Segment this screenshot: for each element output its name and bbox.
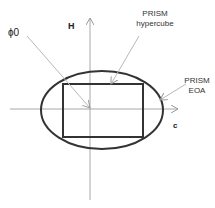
h-axis-label: H <box>68 21 75 31</box>
phi-label: ϕ0 <box>8 27 19 38</box>
hypercube-label: PRISM hypercube <box>130 9 180 29</box>
hypercube-label-line2: hypercube <box>130 19 180 29</box>
eoa-label: PRISM EOA <box>180 76 214 96</box>
prism-hypercube-rect <box>63 84 143 137</box>
eoa-label-line1: PRISM <box>180 76 214 86</box>
eoa-label-line2: EOA <box>180 86 214 96</box>
phi-arrow <box>27 36 90 108</box>
c-axis-label: c <box>173 121 177 130</box>
hypercube-label-line1: PRISM <box>130 9 180 19</box>
diagram-canvas <box>0 0 215 208</box>
